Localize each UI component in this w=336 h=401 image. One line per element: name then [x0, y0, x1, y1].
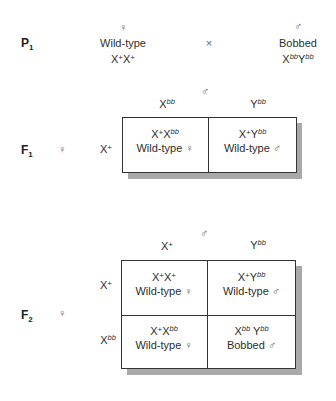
cell-genotype: X+Xbb — [121, 324, 207, 338]
male-symbol-icon: ♂ — [201, 85, 209, 97]
f2-cell: Xbb Ybb Bobbed ♂ — [207, 324, 296, 352]
female-symbol-icon: ♀ — [119, 21, 127, 33]
f2-col-header: Ybb — [250, 239, 266, 252]
cell-phenotype: Wild-type ♂ — [208, 141, 297, 155]
f2-col-header: X+ — [161, 240, 173, 253]
f2-cell: X+X+ Wild-type ♀ — [121, 270, 207, 298]
f1-cell: X+Ybb Wild-type ♂ — [208, 127, 297, 155]
male-symbol-icon: ♂ — [273, 142, 281, 154]
cell-genotype: X+Ybb — [208, 127, 297, 141]
male-symbol-icon: ♂ — [272, 285, 280, 297]
cell-phenotype: Bobbed ♂ — [207, 338, 296, 352]
female-symbol-icon: ♀ — [58, 307, 66, 319]
cell-phenotype: Wild-type ♂ — [207, 284, 296, 298]
p1-female-genotype: X+X+ — [111, 53, 135, 66]
male-symbol-icon: ♂ — [268, 339, 276, 351]
p1-female-phenotype: Wild-type — [100, 37, 146, 50]
f1-generation-label: F1 — [21, 143, 33, 159]
f1-cell: X+Xbb Wild-type ♀ — [122, 127, 208, 155]
female-symbol-icon: ♀ — [184, 285, 192, 297]
cell-phenotype: Wild-type ♀ — [122, 141, 208, 155]
f1-col-header: Xbb — [159, 98, 175, 111]
cell-phenotype: Wild-type ♀ — [121, 338, 207, 352]
cell-genotype: X+X+ — [121, 270, 207, 284]
cell-genotype: X+Ybb — [207, 270, 296, 284]
female-symbol-icon: ♀ — [185, 142, 193, 154]
female-symbol-icon: ♀ — [58, 143, 66, 155]
p1-male-genotype: XbbYbb — [282, 53, 313, 66]
p1-generation-label: P1 — [21, 36, 33, 52]
f1-row-header: X+ — [100, 143, 112, 156]
male-symbol-icon: ♂ — [294, 20, 302, 32]
f2-row-header: X+ — [100, 279, 112, 292]
p1-male-phenotype: Bobbed — [279, 37, 317, 50]
cross-symbol: × — [206, 37, 212, 50]
cell-phenotype: Wild-type ♀ — [121, 284, 207, 298]
f2-horizontal-divider — [121, 315, 296, 316]
f1-col-header: Ybb — [250, 98, 266, 111]
f2-row-header: Xbb — [100, 334, 116, 347]
cell-genotype: Xbb Ybb — [207, 324, 296, 338]
f2-generation-label: F2 — [21, 308, 33, 324]
female-symbol-icon: ♀ — [184, 339, 192, 351]
f2-cell: X+Ybb Wild-type ♂ — [207, 270, 296, 298]
male-symbol-icon: ♂ — [200, 227, 208, 239]
cell-genotype: X+Xbb — [122, 127, 208, 141]
f2-cell: X+Xbb Wild-type ♀ — [121, 324, 207, 352]
